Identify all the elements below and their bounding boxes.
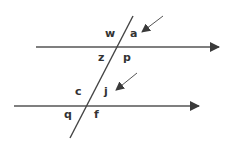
pointer-arrow-to-j — [116, 73, 137, 90]
transversal-line — [70, 16, 133, 138]
angle-label-q: q — [64, 108, 72, 121]
angle-label-p: p — [123, 51, 131, 64]
angle-label-a: a — [130, 27, 137, 40]
pointer-arrow-to-a — [142, 16, 163, 32]
angle-label-w: w — [105, 27, 115, 40]
angle-label-j: j — [103, 85, 108, 98]
angle-label-f: f — [94, 108, 99, 121]
angle-label-z: z — [98, 51, 104, 64]
transversal-diagram: w a z p c j q f — [0, 0, 226, 150]
angle-label-c: c — [75, 85, 82, 98]
